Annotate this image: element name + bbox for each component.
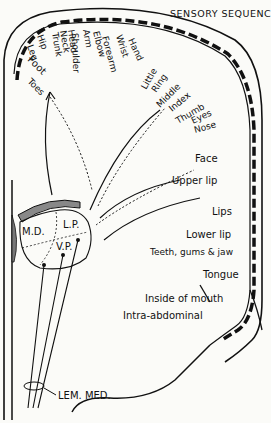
svg-text:Tongue: Tongue	[202, 269, 239, 280]
label-foot: Foot	[26, 54, 49, 77]
svg-text:Face: Face	[195, 153, 218, 164]
sensory-strip	[17, 19, 254, 340]
label-vp: V.P.	[56, 241, 72, 252]
label-md: M.D.	[22, 226, 45, 237]
right-labels: Face Upper lip Lips Lower lip Teeth, gum…	[123, 153, 239, 321]
label-lp: L.P.	[63, 219, 79, 230]
top-labels: Hip Leg Trunk Neck Head Shoulder Arm Elb…	[25, 29, 218, 135]
label-lem-med: LEM. MED.	[58, 390, 111, 401]
svg-text:Shoulder: Shoulder	[70, 33, 81, 74]
svg-text:Wrist: Wrist	[114, 34, 131, 59]
svg-text:Lower lip: Lower lip	[186, 229, 231, 240]
sensory-sequence-diagram: SENSORY SEQUENCE Hip Leg Trunk Neck Head…	[0, 0, 271, 423]
svg-text:Lips: Lips	[212, 206, 232, 217]
svg-text:Teeth, gums & jaw: Teeth, gums & jaw	[149, 247, 233, 257]
diagram-title: SENSORY SEQUENCE	[170, 8, 271, 19]
svg-text:Intra-abdominal: Intra-abdominal	[123, 310, 203, 321]
svg-text:Inside of mouth: Inside of mouth	[145, 293, 223, 304]
label-toes: Toes	[25, 76, 47, 98]
